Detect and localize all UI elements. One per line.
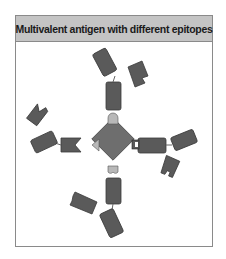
epitope-top	[108, 113, 118, 124]
antigen	[92, 113, 139, 173]
antigen-antibody-diagram	[0, 0, 226, 259]
antibody-top	[92, 48, 148, 110]
epitope-bottom	[108, 166, 118, 173]
antibody-left	[25, 102, 81, 153]
antibody-right	[138, 129, 198, 178]
antibody-bottom	[70, 178, 124, 238]
